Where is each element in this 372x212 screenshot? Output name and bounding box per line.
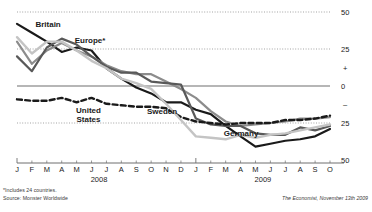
- x-tick-label: O: [327, 165, 333, 174]
- x-tick-label: D: [178, 165, 184, 174]
- footnote: *Includes 24 countries. Source: Monster …: [3, 187, 68, 203]
- x-tick-label: A: [119, 165, 124, 174]
- year-label: 2008: [91, 175, 108, 184]
- x-tick-label: A: [59, 165, 64, 174]
- x-tick-label: J: [105, 165, 109, 174]
- x-tick-label: J: [283, 165, 287, 174]
- x-axis-labels: JFMAMJJASONDJFMAMJJASO: [15, 165, 333, 174]
- x-tick-label: J: [194, 165, 198, 174]
- x-tick-label: A: [298, 165, 303, 174]
- y-axis-plus-sign: +: [343, 64, 348, 73]
- y-axis-minus-sign: –: [343, 100, 348, 109]
- series-label-britain: Britain: [35, 20, 60, 29]
- footnote-line-2: Source: Monster Worldwide: [3, 195, 68, 203]
- y-tick-label: 25: [341, 45, 349, 54]
- series-label-germany: Germany: [224, 129, 259, 138]
- year-label: 2009: [255, 175, 272, 184]
- x-tick-label: O: [148, 165, 154, 174]
- y-tick-label: 25: [341, 119, 349, 128]
- x-tick-label: S: [134, 165, 139, 174]
- series-label-sweden: Sweden: [147, 107, 177, 116]
- x-tick-label: J: [90, 165, 94, 174]
- x-tick-label: M: [73, 165, 79, 174]
- footnote-line-1: *Includes 24 countries.: [3, 187, 68, 195]
- year-labels: 20082009: [91, 175, 272, 184]
- y-tick-label: 50: [341, 8, 349, 17]
- x-tick-label: M: [223, 165, 229, 174]
- x-tick-label: J: [15, 165, 19, 174]
- source-credit: The Economist, November 13th 2009: [282, 195, 368, 201]
- x-tick-label: J: [269, 165, 273, 174]
- x-tick-label: S: [313, 165, 318, 174]
- x-tick-label: N: [163, 165, 168, 174]
- y-tick-label: 0: [341, 82, 345, 91]
- series-label-united-states: States: [76, 115, 101, 124]
- x-tick-label: M: [44, 165, 50, 174]
- x-tick-label: F: [30, 165, 35, 174]
- series-label-europe: Europe*: [75, 36, 107, 45]
- series-line-sweden: [17, 37, 330, 139]
- x-tick-label: M: [252, 165, 258, 174]
- x-tick-label: F: [208, 165, 213, 174]
- chart-container: 502502550+– JFMAMJJASONDJFMAMJJASO 20082…: [0, 0, 372, 212]
- series-paths: [17, 24, 330, 147]
- x-axis: [17, 158, 344, 163]
- y-axis-labels: 502502550+–: [341, 8, 349, 165]
- series-label-united-states: United: [76, 106, 101, 115]
- line-chart-svg: 502502550+– JFMAMJJASONDJFMAMJJASO 20082…: [0, 0, 372, 212]
- x-tick-label: A: [238, 165, 243, 174]
